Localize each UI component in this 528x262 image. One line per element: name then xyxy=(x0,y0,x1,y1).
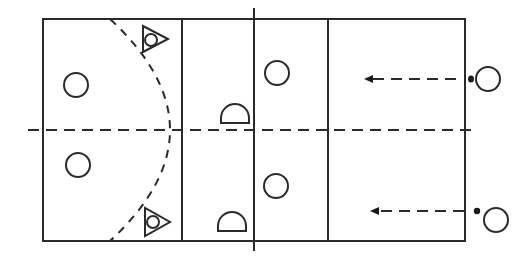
half-circle-marker-bottom xyxy=(218,212,246,231)
player-circle xyxy=(264,174,288,198)
ball-dot xyxy=(468,76,474,83)
player-circle xyxy=(484,208,508,232)
half-circle-marker-top xyxy=(221,104,249,123)
player-circle xyxy=(476,67,500,91)
player-circle xyxy=(66,153,90,177)
pass-arrow-bottom xyxy=(370,207,464,215)
player-circle xyxy=(64,73,88,97)
pass-arrow-top xyxy=(364,75,456,83)
ball-dot xyxy=(474,208,480,214)
player-circle xyxy=(265,61,289,85)
triangle-circle-marker-top xyxy=(143,26,168,52)
court-diagram xyxy=(0,0,528,262)
triangle-circle-marker-bottom xyxy=(145,208,170,236)
